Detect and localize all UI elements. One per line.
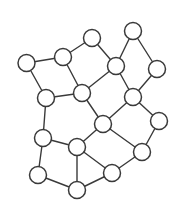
network-graph-diagram [0, 0, 184, 215]
graph-node-E [74, 85, 91, 102]
graph-node-N [69, 182, 86, 199]
graph-node-J [35, 130, 52, 147]
graph-node-C [84, 30, 101, 47]
graph-node-K [69, 139, 86, 156]
graph-node-I [125, 89, 142, 106]
graph-node-Q [104, 165, 121, 182]
graph-node-B [55, 49, 72, 66]
edges-layer [27, 31, 160, 190]
graph-node-O [151, 113, 168, 130]
graph-node-H [149, 61, 166, 78]
graph-node-A [18, 55, 35, 72]
graph-node-P [134, 144, 151, 161]
graph-node-D [38, 90, 55, 107]
graph-node-F [125, 23, 142, 40]
graph-node-M [30, 167, 47, 184]
graph-node-L [95, 116, 112, 133]
graph-node-G [108, 58, 125, 75]
